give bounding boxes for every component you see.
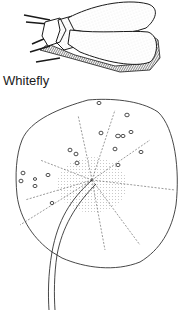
whitefly-caption: Whitefly <box>3 73 49 88</box>
leaf-icon <box>0 88 182 317</box>
whitefly-figure: Whitefly <box>0 0 182 317</box>
whitefly-icon <box>0 0 182 78</box>
